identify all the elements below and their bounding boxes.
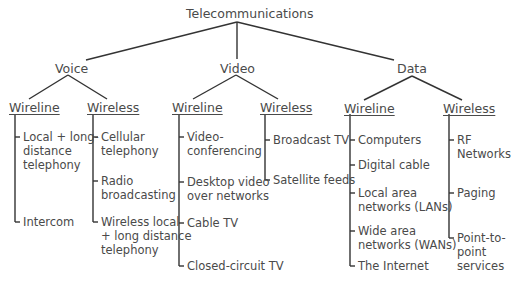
leaf-local-long-distance-telephony: Local + long- distance telephony bbox=[23, 130, 99, 172]
category-voice: Voice bbox=[55, 61, 88, 76]
leaf-broadcast-tv: Broadcast TV bbox=[273, 133, 349, 147]
leaf-intercom: Intercom bbox=[23, 215, 74, 229]
leaf-computers: Computers bbox=[358, 133, 421, 147]
leaf-desktop-video: Desktop video over networks bbox=[187, 175, 270, 203]
leaf-radio-broadcasting: Radio broadcasting bbox=[101, 174, 176, 202]
root-node: Telecommunications bbox=[186, 6, 314, 21]
data-wireless: Wireless bbox=[443, 101, 495, 116]
leaf-digital-cable: Digital cable bbox=[358, 158, 430, 172]
leaf-closed-circuit-tv: Closed-circuit TV bbox=[187, 259, 284, 273]
leaf-paging: Paging bbox=[457, 186, 496, 200]
category-video: Video bbox=[220, 61, 255, 76]
leaf-cable-tv: Cable TV bbox=[187, 216, 238, 230]
leaf-cellular-telephony: Cellular telephony bbox=[101, 130, 159, 158]
voice-wireline: Wireline bbox=[9, 100, 60, 115]
category-data: Data bbox=[397, 61, 427, 76]
leaf-rf-networks: RF Networks bbox=[457, 133, 511, 161]
leaf-satellite-feeds: Satellite feeds bbox=[273, 173, 355, 187]
leaf-wireless-local-long-distance: Wireless local + long distance telephony bbox=[101, 215, 192, 257]
leaf-point-to-point-services: Point-to- point services bbox=[457, 231, 506, 273]
leaf-the-internet: The Internet bbox=[358, 259, 429, 273]
voice-wireless: Wireless bbox=[87, 100, 139, 115]
leaf-videoconferencing: Video- conferencing bbox=[187, 130, 262, 158]
video-wireless: Wireless bbox=[260, 100, 312, 115]
video-wireline: Wireline bbox=[172, 100, 223, 115]
leaf-wans: Wide area networks (WANs) bbox=[358, 224, 457, 252]
leaf-lans: Local area networks (LANs) bbox=[358, 186, 452, 214]
data-wireline: Wireline bbox=[344, 101, 395, 116]
